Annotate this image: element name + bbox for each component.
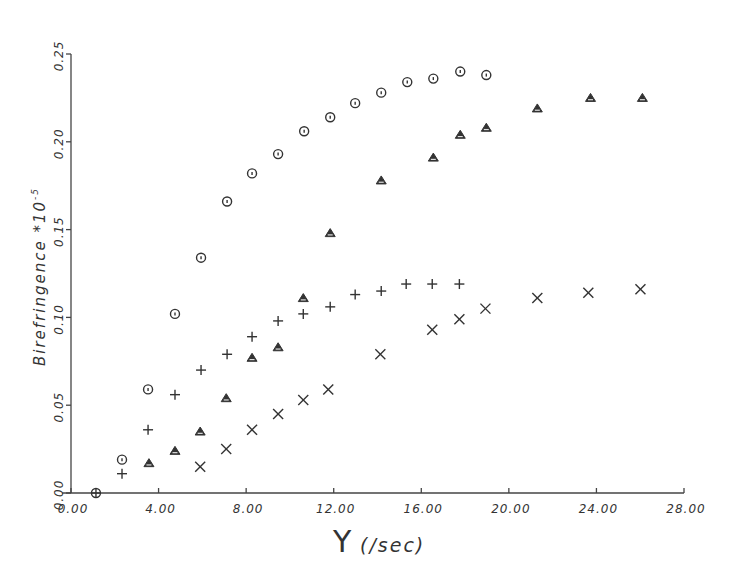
circle-marker <box>144 385 153 394</box>
triangle-marker <box>455 130 465 138</box>
x-marker <box>480 304 490 314</box>
x-marker <box>298 395 308 405</box>
triangle-marker <box>532 104 542 112</box>
x-marker <box>247 425 257 435</box>
plus-marker <box>350 290 360 300</box>
circle-marker <box>300 127 309 136</box>
triangle-marker <box>481 123 491 131</box>
triangle-marker <box>144 459 154 467</box>
circle-plus-marker <box>91 489 100 498</box>
triangle-marker <box>221 394 231 402</box>
circle-marker <box>223 197 232 206</box>
circle-marker <box>482 71 491 80</box>
triangle-marker <box>298 294 308 302</box>
x-marker <box>635 284 645 294</box>
x-axis-title-unit: (/sec) <box>360 534 425 556</box>
triangle-marker <box>325 229 335 237</box>
plus-marker <box>247 332 257 342</box>
y-tick-label: 0.20 <box>52 128 66 159</box>
birefringence-scatter-chart: 0.000.050.100.150.200.25 0.004.008.0012.… <box>0 0 745 570</box>
x-tick-label: 8.00 <box>233 502 264 516</box>
x-marker <box>323 384 333 394</box>
x-tick-label: 4.00 <box>145 502 176 516</box>
x-marker <box>221 444 231 454</box>
y-axis-ticks: 0.000.050.100.150.200.25 <box>52 41 71 511</box>
plus-marker <box>143 425 153 435</box>
x-marker <box>532 293 542 303</box>
y-axis-title-text: Birefringence *10 <box>31 200 49 366</box>
plus-marker <box>454 279 464 289</box>
triangle-marker <box>247 353 257 361</box>
x-tick-label: 16.00 <box>404 502 443 516</box>
x-tick-label: 0.00 <box>58 502 89 516</box>
y-tick-label: 0.25 <box>52 41 66 72</box>
plus-marker <box>196 365 206 375</box>
plus-marker <box>222 349 232 359</box>
circle-marker <box>118 455 127 464</box>
plus-marker <box>401 279 411 289</box>
y-axis-title-exponent: -5 <box>30 187 40 200</box>
x-tick-label: 24.00 <box>579 502 618 516</box>
x-axis-ticks: 0.004.008.0012.0016.0020.0024.0028.00 <box>58 488 706 516</box>
triangle-marker <box>273 343 283 351</box>
axes <box>62 54 684 493</box>
y-tick-label: 0.10 <box>52 304 66 335</box>
circle-marker <box>170 309 179 318</box>
x-marker <box>273 409 283 419</box>
x-marker <box>195 462 205 472</box>
circle-marker <box>197 253 206 262</box>
triangle-marker <box>170 446 180 454</box>
plus-marker <box>427 279 437 289</box>
plus-marker <box>170 390 180 400</box>
circle-marker <box>429 74 438 83</box>
triangle-marker <box>586 93 596 101</box>
circle-marker <box>274 150 283 159</box>
y-axis-title-group: Birefringence *10-5 <box>30 187 49 366</box>
plus-marker <box>117 469 127 479</box>
triangle-marker <box>376 176 386 184</box>
triangle-marker <box>195 427 205 435</box>
circle-marker <box>351 99 360 108</box>
circle-marker <box>456 67 465 76</box>
circle-marker <box>403 78 412 87</box>
plus-marker <box>325 302 335 312</box>
data-markers <box>91 67 647 497</box>
x-marker <box>583 288 593 298</box>
circle-marker <box>326 113 335 122</box>
y-axis-title: Birefringence *10-5 <box>30 187 49 366</box>
x-marker <box>427 325 437 335</box>
x-marker <box>375 349 385 359</box>
plus-marker <box>376 286 386 296</box>
circle-marker <box>377 88 386 97</box>
x-tick-label: 28.00 <box>666 502 705 516</box>
plus-marker <box>298 309 308 319</box>
triangle-marker <box>637 93 647 101</box>
triangle-marker <box>428 153 438 161</box>
x-marker <box>454 314 464 324</box>
y-tick-label: 0.15 <box>52 216 66 247</box>
x-tick-label: 12.00 <box>316 502 355 516</box>
y-tick-label: 0.05 <box>52 392 66 423</box>
x-tick-label: 20.00 <box>491 502 530 516</box>
circle-marker <box>248 169 257 178</box>
x-axis-title-symbol: Υ <box>332 524 353 559</box>
plus-marker <box>273 316 283 326</box>
